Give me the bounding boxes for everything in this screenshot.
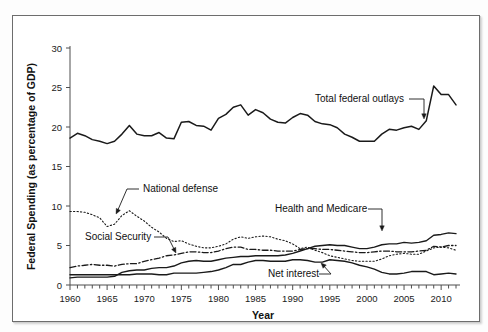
- annotation-leader-social-security: [154, 237, 175, 251]
- x-tick-label: 1965: [97, 293, 118, 304]
- annotation-label-social-security: Social Security: [85, 231, 151, 242]
- x-tick-label: 2010: [431, 293, 452, 304]
- figure-root: 0510152025301960196519701975198019851990…: [0, 0, 488, 332]
- x-tick-label: 1990: [282, 293, 303, 304]
- x-tick-label: 1970: [134, 293, 155, 304]
- annotation-label-national-defense: National defense: [143, 183, 218, 194]
- annotation-arrow-total-federal-outlays: [422, 114, 427, 119]
- annotation-label-total-federal-outlays: Total federal outlays: [315, 93, 404, 104]
- y-tick-label: 15: [51, 161, 62, 172]
- y-tick-label: 20: [51, 122, 62, 133]
- x-tick-label: 2000: [356, 293, 377, 304]
- annotation-arrow-national-defense: [116, 208, 120, 214]
- figure-border: 0510152025301960196519701975198019851990…: [12, 15, 480, 322]
- y-tick-label: 25: [51, 82, 62, 93]
- y-tick-label: 0: [57, 280, 62, 291]
- x-axis-title: Year: [252, 309, 274, 321]
- series-line-social-security: [70, 246, 456, 268]
- line-chart: 0510152025301960196519701975198019851990…: [13, 16, 479, 321]
- y-tick-label: 10: [51, 201, 62, 212]
- annotation-arrow-health-and-medicare: [380, 226, 385, 231]
- x-tick-label: 2005: [393, 293, 414, 304]
- y-tick-label: 5: [57, 240, 62, 251]
- x-tick-label: 1960: [59, 293, 80, 304]
- x-tick-label: 1980: [208, 293, 229, 304]
- annotation-arrow-social-security: [172, 247, 176, 253]
- x-tick-label: 1975: [171, 293, 192, 304]
- x-tick-label: 1985: [245, 293, 266, 304]
- series-line-net-interest: [70, 260, 456, 275]
- annotation-label-net-interest: Net interest: [268, 268, 319, 279]
- x-tick-label: 1995: [319, 293, 340, 304]
- y-axis-title: Federal Spending (as percentage of GDP): [25, 63, 37, 270]
- y-tick-label: 30: [51, 43, 62, 54]
- chart-canvas: 0510152025301960196519701975198019851990…: [25, 43, 460, 322]
- annotation-label-health-and-medicare: Health and Medicare: [275, 203, 368, 214]
- annotation-leader-national-defense: [117, 189, 139, 212]
